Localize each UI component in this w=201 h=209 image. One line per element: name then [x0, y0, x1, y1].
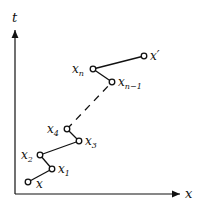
point-x3: [76, 138, 82, 144]
point-x: [25, 179, 31, 185]
label-x2: x2: [21, 148, 33, 164]
x-axis-label: x: [185, 186, 193, 201]
label-xn1: xn−1: [118, 75, 142, 91]
label-x1: x1: [58, 162, 70, 178]
path-segment: [40, 141, 79, 155]
point-x4: [64, 126, 70, 132]
path-segments: [28, 56, 144, 182]
path-segment: [93, 56, 144, 69]
diagram-svg: t x xx1x2x3x4xn−1xnx′: [0, 0, 201, 209]
label-x: x: [36, 177, 43, 191]
y-axis-label: t: [12, 10, 18, 25]
point-x1: [49, 166, 55, 172]
point-xn1: [109, 79, 115, 85]
dashed-segment: [67, 82, 112, 129]
point-xn: [90, 66, 96, 72]
point-x2: [37, 152, 43, 158]
label-x4: x4: [47, 122, 59, 138]
path-diagram: t x xx1x2x3x4xn−1xnx′: [0, 0, 201, 209]
label-xp: x′: [150, 49, 160, 63]
path-segment: [93, 69, 112, 82]
label-xn: xn: [72, 62, 84, 78]
path-points: xx1x2x3x4xn−1xnx′: [21, 49, 160, 191]
label-x3: x3: [85, 134, 97, 150]
point-xp: [141, 53, 147, 59]
